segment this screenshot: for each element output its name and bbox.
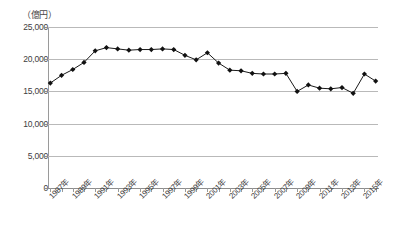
data-point-marker [149,47,154,52]
data-point-marker [137,47,142,52]
data-point-marker [227,68,232,73]
x-axis-tick-label: 2015年 [360,176,385,201]
y-axis-tick-label: 15,000 [4,86,48,96]
data-point-marker [70,67,75,72]
gridline [48,124,378,125]
gridline [48,91,378,92]
data-point-marker [93,48,98,53]
data-point-marker [171,47,176,52]
data-point-marker [238,68,243,73]
data-point-marker [339,85,344,90]
data-point-marker [126,48,131,53]
data-point-marker [261,71,266,76]
y-axis-line [48,27,49,188]
data-point-marker [317,86,322,91]
gridline [48,59,378,60]
data-point-marker [115,46,120,51]
data-point-marker [283,71,288,76]
data-point-marker [182,53,187,58]
chart-root: （億円） 25,00020,00015,00010,0005,0000 1987… [0,0,400,245]
y-axis-tick-label: 5,000 [4,151,48,161]
data-point-marker [216,60,221,65]
data-point-marker [250,71,255,76]
y-axis-tick-label: 0 [4,183,48,193]
y-axis-labels: 25,00020,00015,00010,0005,0000 [0,0,48,245]
y-axis-tick-label: 20,000 [4,54,48,64]
data-point-marker [104,45,109,50]
series-markers [48,45,378,96]
series-plot [0,0,400,245]
data-point-marker [306,82,311,87]
y-axis-tick-label: 25,000 [4,22,48,32]
data-point-marker [272,71,277,76]
series-line [50,48,375,94]
data-point-marker [362,71,367,76]
data-point-marker [205,50,210,55]
gridline [48,156,378,157]
y-axis-tick-label: 10,000 [4,119,48,129]
gridline [48,27,378,28]
data-point-marker [160,46,165,51]
data-point-marker [81,60,86,65]
data-point-marker [59,73,64,78]
data-point-marker [373,78,378,83]
